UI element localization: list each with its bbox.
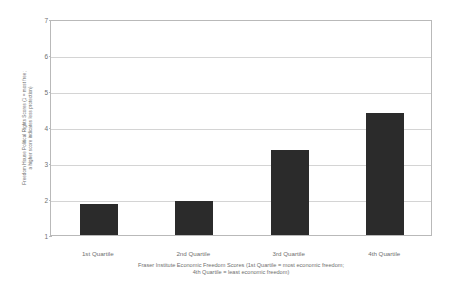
y-axis-title-line-1: Freedom House Political Rights Scores (1… bbox=[22, 71, 28, 185]
y-axis-tick-label: 6 bbox=[44, 53, 48, 60]
y-axis-tick-labels: 1234567 bbox=[36, 20, 48, 236]
y-axis-tick-label: 4 bbox=[44, 125, 48, 132]
y-axis-tick-mark bbox=[49, 236, 52, 237]
x-axis-tick-label: 3rd Quartile bbox=[273, 250, 305, 257]
y-axis-tick-label: 5 bbox=[44, 89, 48, 96]
y-axis-title-line-2: a higher score indicates less protection… bbox=[28, 87, 34, 170]
y-axis-tick-label: 7 bbox=[44, 17, 48, 24]
x-axis-caption-line-1: Fraser Institute Economic Freedom Scores… bbox=[50, 262, 432, 269]
x-axis-caption: Fraser Institute Economic Freedom Scores… bbox=[50, 262, 432, 277]
bar-1 bbox=[80, 204, 118, 235]
y-axis-tick-label: 2 bbox=[44, 197, 48, 204]
bar-chart-figure: Freedom House Political Rights Scores (1… bbox=[0, 0, 451, 284]
x-axis-caption-line-2: 4th Quartile = least economic freedom) bbox=[50, 269, 432, 276]
x-axis-tick-label: 4th Quartile bbox=[368, 250, 400, 257]
bar-2 bbox=[175, 201, 213, 235]
x-axis-tick-label: 1st Quartile bbox=[82, 250, 114, 257]
y-axis-tick-label: 3 bbox=[44, 161, 48, 168]
bars-layer bbox=[51, 21, 431, 235]
bar-3 bbox=[271, 150, 309, 235]
bar-4 bbox=[366, 113, 404, 235]
x-axis-tick-labels: 1st Quartile2nd Quartile3rd Quartile4th … bbox=[50, 250, 432, 260]
y-axis-title: Freedom House Political Rights Scores (1… bbox=[18, 20, 38, 236]
plot-area bbox=[50, 20, 432, 236]
y-axis-tick-label: 1 bbox=[44, 233, 48, 240]
x-axis-tick-label: 2nd Quartile bbox=[176, 250, 210, 257]
